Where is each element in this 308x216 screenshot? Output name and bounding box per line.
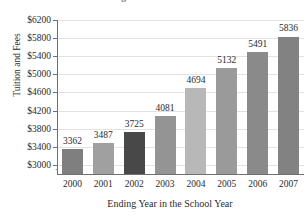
chart-title: College Tuition and Fees — [0, 0, 308, 2]
bar — [216, 68, 237, 174]
axis-origin-mark: + — [55, 168, 59, 172]
y-axis-tick-label: $3800 — [5, 125, 51, 135]
y-axis-tick-label: $5400 — [5, 52, 51, 62]
bar-value-label: 3487 — [80, 131, 126, 141]
bar-value-label: 5491 — [235, 40, 281, 50]
bar-chart: College Tuition and Fees Tuition and Fee… — [0, 0, 308, 216]
y-axis-tick — [53, 147, 58, 148]
x-axis-line — [57, 174, 304, 175]
bar — [278, 37, 299, 175]
gridline — [58, 20, 304, 21]
gridline — [58, 38, 304, 39]
y-axis-tick — [53, 129, 58, 130]
bar — [185, 88, 206, 174]
y-axis-tick — [53, 38, 58, 39]
y-axis-tick — [53, 111, 58, 112]
x-axis-tick-label: 2007 — [266, 180, 308, 190]
y-axis-tick-label: $5000 — [5, 70, 51, 80]
y-axis-tick-label: $5800 — [5, 34, 51, 44]
bar-value-label: 3725 — [111, 120, 157, 130]
bar — [155, 116, 176, 174]
bar — [124, 132, 145, 174]
bar — [62, 149, 83, 174]
x-axis-title: Ending Year in the School Year — [40, 198, 300, 209]
bar-value-label: 4081 — [142, 104, 188, 114]
y-axis-tick — [53, 165, 58, 166]
y-axis-tick — [53, 20, 58, 21]
y-axis-tick — [53, 56, 58, 57]
y-axis-tick-label: $3000 — [5, 161, 51, 171]
bar-value-label: 5836 — [266, 24, 308, 34]
y-axis-tick — [53, 74, 58, 75]
plot-area: + $6200$5800$5400$5000$4600$4200$3800$34… — [57, 20, 304, 175]
y-axis-tick-label: $6200 — [5, 16, 51, 26]
bar-value-label: 4694 — [173, 76, 219, 86]
bar-value-label: 5132 — [204, 56, 250, 66]
bar — [247, 52, 268, 174]
y-axis-tick-label: $4200 — [5, 107, 51, 117]
y-axis-tick-label: $4600 — [5, 88, 51, 98]
y-axis-tick — [53, 92, 58, 93]
y-axis-tick-label: $3400 — [5, 143, 51, 153]
bar — [93, 143, 114, 174]
y-axis-line — [57, 20, 58, 175]
